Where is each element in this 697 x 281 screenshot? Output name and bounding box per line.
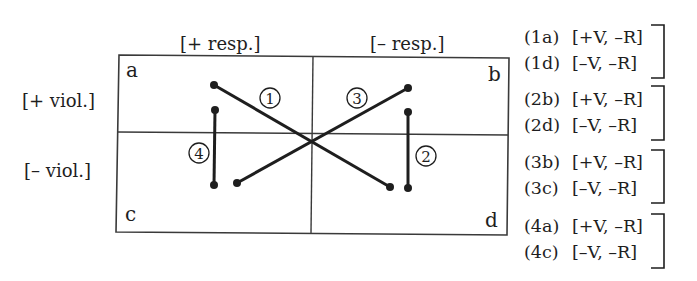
marker-4-label: 4	[194, 145, 204, 163]
legend-row-3c: (3c)[–V, –R]	[524, 180, 637, 198]
legend-features: [–V, –R]	[572, 115, 637, 135]
legend-code: (2d)	[524, 117, 572, 135]
marker-1: 1	[260, 88, 280, 108]
path-2-end-dot	[404, 184, 412, 192]
corner-label-d: d	[485, 210, 498, 230]
legend-code: (4a)	[524, 218, 572, 236]
path-1-end-dot	[386, 183, 394, 191]
path-1-start-dot	[210, 81, 218, 89]
legend-features: [+V, –R]	[572, 152, 643, 172]
marker-1-label: 1	[265, 90, 275, 108]
legend-code: (3b)	[524, 154, 572, 172]
legend-features: [–V, –R]	[572, 242, 637, 262]
legend-features: [–V, –R]	[572, 178, 637, 198]
legend-code: (2b)	[524, 91, 572, 109]
legend-row-1d: (1d)[–V, –R]	[524, 55, 637, 73]
corner-label-b: b	[488, 64, 501, 84]
marker-2-label: 2	[421, 148, 431, 166]
legend-features: [+V, –R]	[572, 89, 643, 109]
legend-row-3b: (3b)[+V, –R]	[524, 154, 643, 172]
legend-row-2b: (2b)[+V, –R]	[524, 91, 643, 109]
path-4-line	[214, 110, 215, 185]
marker-3-label: 3	[352, 90, 362, 108]
legend-code: (1a)	[524, 29, 572, 47]
grid-vertical-divider	[311, 56, 313, 233]
marker-2: 2	[416, 146, 436, 166]
legend-code: (4c)	[524, 244, 572, 262]
bracket-group-3	[651, 150, 664, 203]
legend-features: [–V, –R]	[572, 53, 637, 73]
corner-label-a: a	[126, 60, 138, 80]
path-4-start-dot	[211, 106, 219, 114]
path-3-end-dot	[233, 179, 241, 187]
corner-label-c: c	[125, 204, 136, 224]
legend-row-1a: (1a)[+V, –R]	[524, 29, 643, 47]
bracket-group-4	[651, 214, 664, 268]
legend-row-4a: (4a)[+V, –R]	[524, 218, 643, 236]
grid-horizontal-divider	[118, 132, 508, 135]
bracket-group-2	[651, 86, 664, 140]
path-4-end-dot	[210, 181, 218, 189]
legend-row-4c: (4c)[–V, –R]	[524, 244, 637, 262]
legend-features: [+V, –R]	[572, 27, 643, 47]
bracket-group-1	[651, 25, 664, 78]
legend-features: [+V, –R]	[572, 216, 643, 236]
marker-4: 4	[189, 143, 209, 163]
legend-code: (3c)	[524, 180, 572, 198]
path-3-start-dot	[404, 84, 412, 92]
legend-row-2d: (2d)[–V, –R]	[524, 117, 637, 135]
marker-3: 3	[347, 88, 367, 108]
legend-code: (1d)	[524, 55, 572, 73]
path-2-start-dot	[404, 108, 412, 116]
